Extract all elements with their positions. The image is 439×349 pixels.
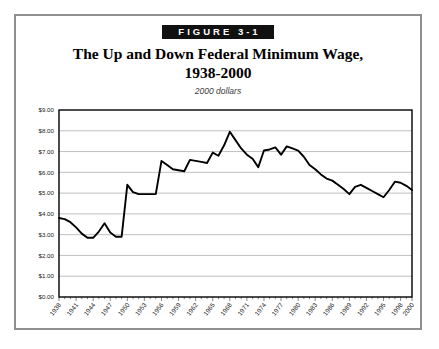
y-axis-tick-label: $2.00 bbox=[39, 252, 55, 259]
x-axis-tick-label: 1971 bbox=[236, 301, 251, 317]
y-axis-tick-label: $0.00 bbox=[39, 293, 55, 300]
x-axis-tick-label: 1962 bbox=[185, 301, 200, 317]
x-axis-tick-label: 1995 bbox=[373, 301, 388, 317]
x-axis-tick-label: 1950 bbox=[116, 301, 131, 317]
x-axis-tick-label: 1968 bbox=[219, 301, 234, 317]
chart-axis-frame bbox=[59, 110, 412, 297]
x-axis-tick-label: 1983 bbox=[304, 301, 319, 317]
x-axis-tick-label: 1959 bbox=[168, 301, 183, 317]
chart-x-axis-labels: 1938194119441947195019531956195919621965… bbox=[48, 301, 416, 317]
y-axis-tick-label: $1.00 bbox=[39, 272, 55, 279]
y-axis-tick-label: $5.00 bbox=[39, 189, 55, 196]
chart-y-axis-labels: $0.00$1.00$2.00$3.00$4.00$5.00$6.00$7.00… bbox=[39, 106, 55, 300]
x-axis-tick-label: 2000 bbox=[401, 301, 416, 317]
figure-container: FIGURE 3-1 The Up and Down Federal Minim… bbox=[14, 14, 422, 330]
figure-title-line-1: The Up and Down Federal Minimum Wage, bbox=[32, 45, 404, 64]
x-axis-tick-label: 1977 bbox=[270, 301, 285, 317]
chart-plot-area: $0.00$1.00$2.00$3.00$4.00$5.00$6.00$7.00… bbox=[16, 102, 420, 330]
figure-number-badge: FIGURE 3-1 bbox=[162, 25, 273, 40]
y-axis-tick-label: $4.00 bbox=[39, 210, 55, 217]
y-axis-tick-label: $6.00 bbox=[39, 169, 55, 176]
x-axis-tick-label: 1956 bbox=[151, 301, 166, 317]
figure-header: FIGURE 3-1 The Up and Down Federal Minim… bbox=[16, 16, 420, 96]
x-axis-tick-label: 1980 bbox=[287, 301, 302, 317]
y-axis-tick-label: $3.00 bbox=[39, 231, 55, 238]
x-axis-tick-label: 1938 bbox=[48, 301, 63, 317]
line-chart-svg: $0.00$1.00$2.00$3.00$4.00$5.00$6.00$7.00… bbox=[16, 102, 420, 330]
x-axis-tick-label: 1944 bbox=[82, 301, 97, 317]
x-axis-tick-label: 1974 bbox=[253, 301, 268, 317]
figure-title: The Up and Down Federal Minimum Wage, 19… bbox=[32, 45, 404, 83]
figure-title-line-2: 1938-2000 bbox=[32, 64, 404, 83]
x-axis-tick-label: 1989 bbox=[338, 301, 353, 317]
x-axis-tick-label: 1953 bbox=[133, 301, 148, 317]
x-axis-tick-label: 1941 bbox=[65, 301, 80, 317]
x-axis-tick-label: 1992 bbox=[355, 301, 370, 317]
x-axis-tick-label: 1965 bbox=[202, 301, 217, 317]
x-axis-tick-label: 1986 bbox=[321, 301, 336, 317]
chart-series-line bbox=[59, 132, 412, 238]
y-axis-tick-label: $9.00 bbox=[39, 106, 55, 113]
figure-subtitle: 2000 dollars bbox=[16, 86, 420, 96]
y-axis-tick-label: $7.00 bbox=[39, 148, 55, 155]
chart-gridlines bbox=[59, 131, 412, 276]
y-axis-tick-label: $8.00 bbox=[39, 127, 55, 134]
x-axis-tick-label: 1947 bbox=[99, 301, 114, 317]
